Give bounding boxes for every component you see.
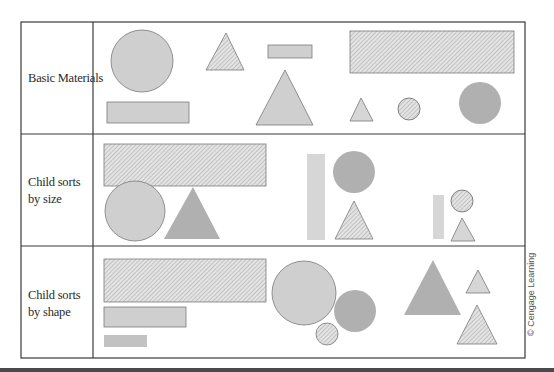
small-hatched-circle: [398, 98, 420, 120]
dark-circle: [459, 82, 501, 124]
row-by-size-shapes: [104, 144, 475, 241]
small-light-triangle: [350, 98, 373, 121]
row-label-line: by shape: [28, 304, 80, 321]
small-hatched-circle: [451, 190, 473, 212]
row-label-line: by size: [28, 191, 80, 208]
bottom-divider: [0, 368, 554, 372]
row-label-basic-materials: Basic Materials: [28, 70, 103, 87]
row-basic-materials-shapes: [107, 30, 514, 125]
large-light-circle: [105, 181, 165, 241]
large-hatched-rect: [104, 144, 266, 186]
dark-circle: [334, 290, 376, 332]
row-label-by-size: Child sorts by size: [28, 174, 80, 208]
dark-circle: [333, 151, 375, 193]
narrow-light-rect: [433, 195, 444, 239]
hatched-triangle: [335, 201, 373, 239]
row-by-shape-shapes: [104, 259, 497, 347]
row-label-line: Basic Materials: [28, 71, 103, 85]
large-hatched-rect: [104, 259, 266, 302]
row-label-line: Child sorts: [28, 174, 80, 191]
copyright-credit: © Cengage Learning: [526, 253, 536, 336]
small-light-rect: [268, 45, 312, 58]
large-light-triangle: [256, 70, 313, 125]
row-label-by-shape: Child sorts by shape: [28, 287, 80, 321]
large-hatched-rect: [350, 31, 514, 73]
large-light-circle: [272, 261, 336, 325]
sorting-diagram: [0, 0, 554, 372]
small-hatched-circle: [316, 323, 338, 345]
small-light-triangle: [451, 218, 475, 241]
row-label-line: Child sorts: [28, 287, 80, 304]
hatched-triangle: [457, 305, 497, 344]
tall-light-rect: [307, 154, 325, 240]
light-rect: [104, 307, 186, 327]
small-light-triangle: [466, 270, 490, 293]
large-dark-triangle: [404, 260, 461, 315]
dark-triangle: [164, 187, 220, 239]
light-rect: [107, 102, 189, 123]
small-dark-rect: [104, 335, 147, 347]
hatched-triangle: [206, 33, 244, 70]
large-light-circle: [111, 30, 173, 92]
